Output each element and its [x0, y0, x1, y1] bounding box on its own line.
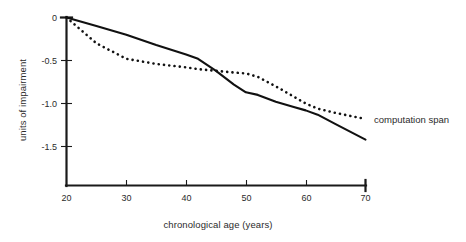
chart-svg: 0 -0.5 -1.0 -1.5 20 30 40 50 60 70 chron… [0, 0, 466, 242]
x-tick-label-1: 30 [121, 193, 131, 203]
x-tick-label-2: 40 [181, 193, 191, 203]
series-solid-line [67, 18, 366, 140]
y-axis-tick-labels: 0 -0.5 -1.0 -1.5 [41, 13, 57, 152]
x-tick-label-5: 70 [360, 193, 370, 203]
chart-axes [61, 17, 366, 191]
x-axis-tick-labels: 20 30 40 50 60 70 [61, 193, 370, 203]
y-tick-label-2: -1.0 [41, 99, 57, 109]
x-tick-label-0: 20 [61, 193, 71, 203]
x-axis-title: chronological age (years) [163, 219, 272, 230]
chart-series-group [67, 18, 366, 140]
y-tick-label-0: 0 [52, 13, 57, 23]
x-tick-label-4: 60 [301, 193, 311, 203]
y-tick-label-3: -1.5 [41, 142, 57, 152]
y-tick-label-1: -0.5 [41, 56, 57, 66]
chart-figure: 0 -0.5 -1.0 -1.5 20 30 40 50 60 70 chron… [0, 0, 466, 242]
y-axis-title: units of impairment [17, 59, 28, 141]
series-computation-span [67, 18, 366, 119]
series-annotation-computation-span: computation span [374, 114, 449, 125]
x-tick-label-3: 50 [241, 193, 251, 203]
